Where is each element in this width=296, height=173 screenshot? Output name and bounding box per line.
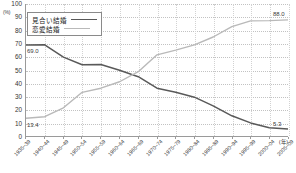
legend-item-renai: 恋愛結婚 <box>32 24 97 33</box>
y-tick-label: 20 <box>15 107 22 113</box>
y-tick-label: 100 <box>11 1 22 7</box>
vertical-gridline <box>289 4 290 136</box>
legend-swatch-miai <box>71 19 97 20</box>
x-axis-tick-labels: (年) 1935~391940~441945~491950~541955~591… <box>25 137 288 173</box>
x-tick-label: 1985~89 <box>201 139 219 157</box>
series-line-miai <box>26 45 288 129</box>
chart-legend: 見合い結婚 恋愛結婚 <box>27 12 102 36</box>
y-tick-label: 30 <box>15 94 22 100</box>
data-point-label-renai-start: 13.4 <box>27 122 39 128</box>
x-tick-label: 1955~59 <box>88 139 106 157</box>
data-point-label-miai-start: 69.0 <box>27 48 39 54</box>
x-tick-label: 2000~04 <box>258 139 276 157</box>
y-tick-label: 80 <box>15 27 22 33</box>
x-tick-label: 1945~49 <box>51 139 69 157</box>
x-tick-label: 1970~74 <box>145 139 163 157</box>
data-point-label-miai-end: 5.3 <box>273 121 281 127</box>
y-tick-label: 40 <box>15 81 22 87</box>
x-tick-label: 1975~79 <box>164 139 182 157</box>
y-tick-label: 70 <box>15 41 22 47</box>
x-tick-label: 1990~94 <box>220 139 238 157</box>
data-point-label-renai-end: 88.0 <box>273 11 285 17</box>
x-tick-label: 1950~54 <box>70 139 88 157</box>
y-tick-label: 60 <box>15 54 22 60</box>
x-tick-label: 1965~69 <box>126 139 144 157</box>
y-tick-label: 90 <box>15 14 22 20</box>
x-tick-label: 1940~44 <box>32 139 50 157</box>
y-tick-label: 10 <box>15 120 22 126</box>
y-tick-label: 50 <box>15 67 22 73</box>
x-tick-label: 1995~99 <box>239 139 257 157</box>
x-tick-label: 1960~64 <box>107 139 125 157</box>
x-tick-label: 1980~84 <box>182 139 200 157</box>
legend-swatch-renai <box>64 28 90 29</box>
y-tick-label: 0 <box>18 134 22 140</box>
legend-label-renai: 恋愛結婚 <box>32 24 60 34</box>
marriage-type-line-chart: (%) 0102030405060708090100 69.05.313.488… <box>0 0 296 173</box>
